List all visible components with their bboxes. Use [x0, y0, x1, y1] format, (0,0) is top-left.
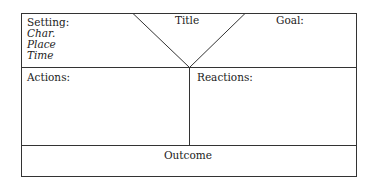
reactions-label: Reactions: — [197, 72, 253, 83]
setting-time: Time — [27, 50, 54, 61]
outcome-label: Outcome — [164, 150, 212, 161]
title-label: Title — [175, 15, 199, 26]
goal-label: Goal: — [276, 15, 304, 26]
actions-label: Actions: — [27, 72, 70, 83]
